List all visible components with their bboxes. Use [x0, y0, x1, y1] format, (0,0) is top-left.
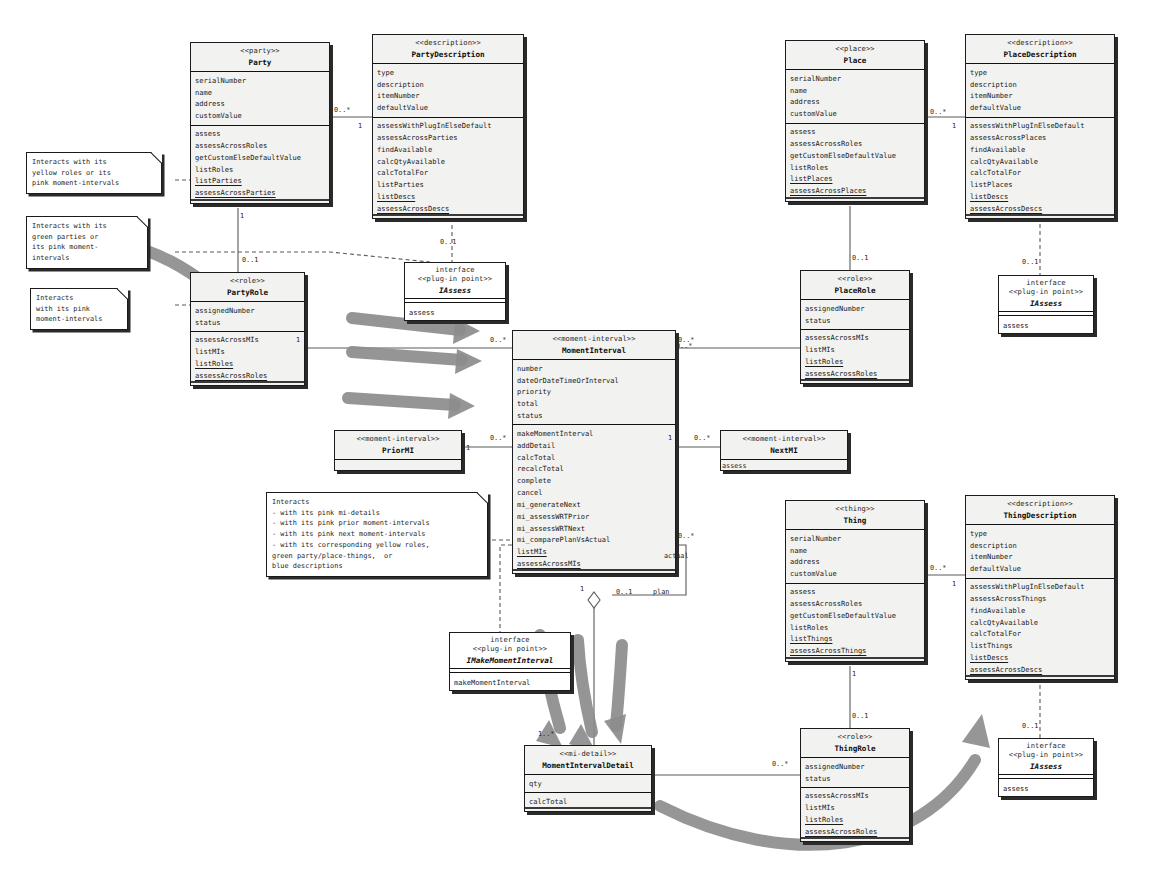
interface-stereotype: <<plug-in point>> [407, 275, 503, 284]
attribute: name [786, 544, 924, 556]
class-moment-interval[interactable]: <<moment-interval>> MomentInterval numbe… [512, 330, 676, 574]
interface-operations: assess [999, 780, 1093, 796]
multiplicity-thing-desc-many: 0..* [930, 564, 946, 572]
class-party-role[interactable]: <<role>> PartyRole assignedNumber status… [190, 272, 305, 386]
class-prior-mi[interactable]: <<moment-interval>> PriorMI [334, 430, 462, 471]
operation: addDetail [513, 439, 675, 451]
attribute: status [801, 772, 909, 784]
interface-imake-moment-interval-header: interface <<plug-in point>> IMakeMomentI… [450, 633, 570, 667]
note-moment-interval-detail: Interacts - with its pink mi-details - w… [266, 492, 488, 577]
interface-operations: assess [999, 317, 1093, 333]
class-place-description-header: <<description>> PlaceDescription [966, 35, 1114, 62]
multiplicity-prior-mi-many: 0..* [490, 434, 506, 442]
class-moment-interval-header: <<moment-interval>> MomentInterval [513, 331, 675, 358]
operation-static: listRoles [191, 358, 304, 370]
role-label-plan: plan [653, 588, 669, 596]
note-line: blue descriptions [272, 561, 481, 572]
class-place-description[interactable]: <<description>> PlaceDescription type de… [965, 34, 1115, 219]
operation: listMIs [191, 346, 304, 358]
divider [405, 298, 505, 303]
operation: calcTotal [513, 451, 675, 463]
class-party-name: Party [194, 58, 326, 67]
operation: assessAcrossMIs [801, 790, 909, 802]
class-place-role[interactable]: <<role>> PlaceRole assignedNumber status… [800, 270, 910, 384]
operation-static: listRoles [801, 814, 909, 826]
class-moment-interval-detail[interactable]: <<mi-detail>> MomentIntervalDetail qty c… [524, 745, 652, 812]
operation: mi_generateNext [513, 498, 675, 510]
interface-stereotype: <<plug-in point>> [1001, 751, 1091, 760]
class-party-description-stereotype: <<description>> [376, 39, 520, 48]
class-thing-role[interactable]: <<role>> ThingRole assignedNumber status… [800, 728, 910, 842]
operation: assess [999, 319, 1093, 331]
class-party-description[interactable]: <<description>> PartyDescription type de… [372, 34, 524, 219]
multiplicity-party-role-one: 1 [240, 212, 244, 220]
divider [450, 668, 570, 673]
operation: assessWithPlugInElseDefault [966, 120, 1114, 132]
class-prior-mi-stereotype: <<moment-interval>> [338, 435, 458, 444]
multiplicity-place-desc-iface: 0..1 [1022, 258, 1038, 266]
multiplicity-mi-plan: 0..1 [616, 588, 632, 596]
divider [999, 311, 1093, 316]
operation-static: listThings [786, 633, 924, 645]
interface-iassess-place[interactable]: interface <<plug-in point>> IAssess asse… [998, 275, 1094, 334]
operation: assess [999, 782, 1093, 794]
class-party[interactable]: <<party>> Party serialNumber name addres… [190, 42, 330, 204]
operation-static: assessAcrossThings [786, 645, 924, 659]
operation: listThings [966, 640, 1114, 652]
interface-iassess-party[interactable]: interface <<plug-in point>> IAssess asse… [404, 262, 506, 321]
attribute: dateOrDateTimeOrInterval [513, 374, 675, 386]
multiplicity-mi-right: 0..* [676, 342, 692, 350]
operation: getCustomElseDefaultValue [786, 609, 924, 621]
operation: mi_comparePlanVsActual [513, 534, 675, 546]
operation-static: assessAcrossDescs [966, 202, 1114, 216]
multiplicity-mi-detail-many: 1..* [538, 730, 554, 738]
class-next-mi-name: NextMI [724, 446, 844, 455]
attribute: serialNumber [786, 72, 924, 84]
class-place-name: Place [789, 56, 921, 65]
class-prior-mi-name: PriorMI [338, 446, 458, 455]
class-place-role-stereotype: <<role>> [804, 275, 906, 284]
class-thing-description-header: <<description>> ThingDescription [966, 496, 1114, 523]
operation: assessAcrossMIs [801, 332, 909, 344]
uml-diagram-canvas: <<party>> Party serialNumber name addres… [0, 0, 1149, 873]
operation: assess [786, 586, 924, 598]
attribute: defaultValue [373, 102, 523, 114]
attribute: type [966, 66, 1114, 78]
interface-iassess-thing[interactable]: interface <<plug-in point>> IAssess asse… [998, 738, 1094, 797]
attribute: type [966, 527, 1114, 539]
class-thing-attributes: serialNumber name address customValue [786, 530, 924, 581]
class-thing[interactable]: <<thing>> Thing serialNumber name addres… [785, 500, 925, 662]
operation-static: listDescs [966, 652, 1114, 664]
class-party-role-attributes: assignedNumber status [191, 302, 304, 330]
attribute: customValue [786, 568, 924, 580]
class-thing-role-header: <<role>> ThingRole [801, 729, 909, 756]
multiplicity-prior-mi-one: 1 [466, 444, 470, 452]
note-fold-icon [117, 288, 128, 299]
class-party-role-header: <<role>> PartyRole [191, 273, 304, 300]
divider [999, 774, 1093, 779]
class-thing-role-attributes: assignedNumber status [801, 758, 909, 786]
attribute: assignedNumber [801, 760, 909, 772]
operation: calcTotalFor [966, 628, 1114, 640]
note-line: pink moment-intervals [32, 178, 155, 189]
class-prior-mi-header: <<moment-interval>> PriorMI [335, 431, 461, 458]
operation: assess [405, 306, 505, 318]
class-thing-description[interactable]: <<description>> ThingDescription type de… [965, 495, 1115, 680]
class-place[interactable]: <<place>> Place serialNumber name addres… [785, 40, 925, 202]
class-place-description-attributes: type description itemNumber defaultValue [966, 64, 1114, 115]
interface-stereotype: <<plug-in point>> [1001, 288, 1091, 297]
operation: calcQtyAvailable [373, 155, 523, 167]
class-party-stereotype: <<party>> [194, 47, 326, 56]
attribute: serialNumber [786, 532, 924, 544]
operation: calcTotalFor [373, 167, 523, 179]
multiplicity-next-mi-many: 0..* [694, 434, 710, 442]
attribute: status [191, 316, 304, 328]
operation-static: assessAcrossPlaces [786, 185, 924, 199]
attribute: status [513, 410, 675, 422]
operation: assessWithPlugInElseDefault [373, 120, 523, 132]
note-line: Interacts [36, 293, 121, 304]
operation: assessAcrossParties [373, 131, 523, 143]
interface-imake-moment-interval[interactable]: interface <<plug-in point>> IMakeMomentI… [449, 632, 571, 691]
attribute: description [373, 78, 523, 90]
operation-static: assessAcrossParties [191, 187, 329, 201]
